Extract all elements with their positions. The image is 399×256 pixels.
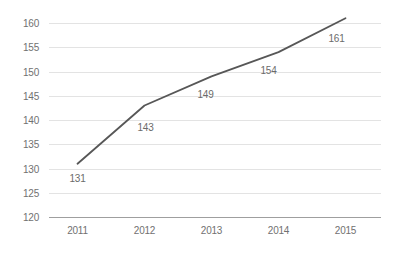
- chart-canvas: 1201251301351401451501551602011201220132…: [0, 0, 399, 256]
- data-point-label: 131: [69, 173, 86, 184]
- data-point-label: 143: [137, 122, 154, 133]
- y-tick-label: 145: [23, 91, 40, 102]
- y-tick-label: 125: [23, 188, 40, 199]
- y-tick-label: 155: [23, 42, 40, 53]
- x-tick-label: 2015: [335, 225, 357, 236]
- data-point-label: 149: [197, 89, 214, 100]
- x-tick-label: 2014: [268, 225, 290, 236]
- data-point-label: 154: [260, 65, 277, 76]
- x-tick-label: 2013: [201, 225, 223, 236]
- data-point-label: 161: [328, 33, 345, 44]
- line-chart: 1201251301351401451501551602011201220132…: [0, 0, 399, 256]
- y-tick-label: 130: [23, 164, 40, 175]
- y-tick-label: 135: [23, 139, 40, 150]
- y-tick-label: 120: [23, 212, 40, 223]
- y-tick-label: 160: [23, 18, 40, 29]
- x-tick-label: 2012: [134, 225, 156, 236]
- y-tick-label: 140: [23, 115, 40, 126]
- y-tick-label: 150: [23, 67, 40, 78]
- x-tick-label: 2011: [67, 225, 88, 236]
